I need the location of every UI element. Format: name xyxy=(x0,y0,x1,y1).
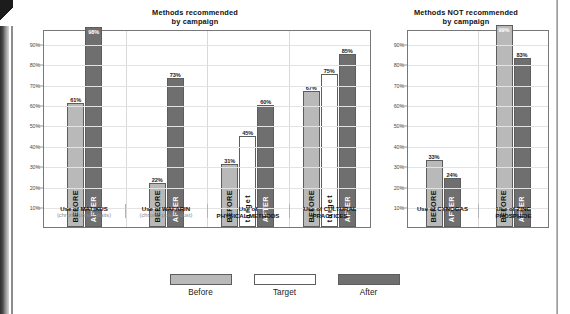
category-label-main2: PRACTICES xyxy=(290,212,370,219)
chart-right-plot-area: 90%80%70%60%50%40%30%20%10% 33%BEFORE24%… xyxy=(383,30,549,228)
bar-group: 61%BEFORE98%AFTER xyxy=(44,31,126,227)
chart-left-y-axis: 90%80%70%60%50%40%30%20%10% xyxy=(19,30,43,228)
gridline xyxy=(408,126,548,127)
category-label-main2: PHYSICAL METHODS xyxy=(208,212,288,219)
legend-swatch-before xyxy=(170,274,232,285)
gridline xyxy=(408,65,548,66)
category-label: Use of CYNOGAS xyxy=(407,202,478,220)
category-label-sub: (chronic poison baits) xyxy=(44,212,124,219)
legend-swatch-target xyxy=(254,274,316,285)
bar-after[interactable]: 98%AFTER xyxy=(85,27,102,227)
category-label-main: Use of ZINC xyxy=(479,205,548,212)
y-tick-mark xyxy=(36,167,43,168)
y-tick-mark xyxy=(36,146,43,147)
chart-right-plot: 33%BEFORE24%AFTER99%BEFORE83%AFTER xyxy=(407,30,549,228)
gridline xyxy=(408,147,548,148)
legend-label-after: After xyxy=(338,288,400,297)
y-tick-mark xyxy=(36,85,43,86)
bar-value-label: 24% xyxy=(447,172,458,178)
y-tick-mark xyxy=(400,105,407,106)
chart-left-plot-area: 90%80%70%60%50%40%30%20%10% 61%BEFORE98%… xyxy=(19,30,371,228)
legend-item-target[interactable]: Target xyxy=(254,274,316,297)
gridline xyxy=(44,147,370,148)
chart-right-bars: 33%BEFORE24%AFTER99%BEFORE83%AFTER xyxy=(408,31,548,227)
gridline xyxy=(408,86,548,87)
gridline xyxy=(408,106,548,107)
bar-group: 99%BEFORE83%AFTER xyxy=(478,31,548,227)
chart-legend: BeforeTargetAfter xyxy=(13,274,556,297)
gridline xyxy=(408,167,548,168)
bar-group: 22%BEFORE73%AFTER xyxy=(126,31,208,227)
bar-value-label: 83% xyxy=(517,52,528,58)
chart-right-y-axis: 90%80%70%60%50%40%30%20%10% xyxy=(383,30,407,228)
bar-group: 67%BEFORE75%target85%AFTER xyxy=(289,31,371,227)
y-tick-mark xyxy=(36,65,43,66)
category-label-main: Use of WAFARIN xyxy=(126,205,206,212)
bar-group: 33%BEFORE24%AFTER xyxy=(408,31,478,227)
y-tick-mark xyxy=(400,187,407,188)
chart-left-category-labels: Use of MATIKUS(chronic poison baits)Use … xyxy=(43,202,371,220)
gridline xyxy=(408,188,548,189)
y-tick-mark xyxy=(400,126,407,127)
bar-value-label: 75% xyxy=(324,68,335,74)
y-tick-mark xyxy=(36,207,43,208)
category-label: Use of MATIKUS(chronic poison baits) xyxy=(43,202,125,220)
category-label: Use of WAFARIN(chronic poison dust) xyxy=(125,202,207,220)
gridline xyxy=(44,86,370,87)
legend-item-before[interactable]: Before xyxy=(170,274,232,297)
chart-right-category-labels: Use of CYNOGASUse of ZINCPHOSPHIDE xyxy=(407,202,549,220)
legend-label-target: Target xyxy=(254,288,316,297)
bar-value-label: 60% xyxy=(260,99,271,105)
gridline xyxy=(44,188,370,189)
gridline xyxy=(408,45,548,46)
category-label: Use ofPHYSICAL METHODS xyxy=(207,202,289,220)
page-edge-shadow xyxy=(0,0,9,314)
bar-value-label: 33% xyxy=(429,154,440,160)
category-label-sub: (chronic poison dust) xyxy=(126,212,206,219)
y-tick-mark xyxy=(400,65,407,66)
bar-value-label: 85% xyxy=(342,48,353,54)
bar-value-label: 73% xyxy=(170,72,181,78)
category-label: Use of CULTURALPRACTICES xyxy=(289,202,371,220)
chart-left-bars: 61%BEFORE98%AFTER22%BEFORE73%AFTER31%BEF… xyxy=(44,31,370,227)
y-tick-mark xyxy=(36,187,43,188)
category-label-main: Use of MATIKUS xyxy=(44,205,124,212)
category-label-main: Use of CULTURAL xyxy=(290,205,370,212)
category-label-main: Use of CYNOGAS xyxy=(408,205,477,212)
y-tick-mark xyxy=(400,44,407,45)
category-label-main2: PHOSPHIDE xyxy=(479,212,548,219)
chart-right-title-line2: by campaign xyxy=(383,17,549,26)
chart-methods-recommended: Methods recommended by campaign 90%80%70… xyxy=(19,0,371,228)
gridline xyxy=(44,126,370,127)
chart-left-plot: 61%BEFORE98%AFTER22%BEFORE73%AFTER31%BEF… xyxy=(43,30,371,228)
chart-left-title: Methods recommended by campaign xyxy=(19,0,371,26)
bar-value-label: 98% xyxy=(88,29,99,35)
chart-left-title-line2: by campaign xyxy=(19,17,371,26)
gridline xyxy=(44,45,370,46)
legend-swatch-after xyxy=(338,274,400,285)
bar-value-label: 45% xyxy=(242,130,253,136)
chart-right-title: Methods NOT recommended by campaign xyxy=(383,0,549,26)
gridline xyxy=(44,167,370,168)
chart-left-title-line1: Methods recommended xyxy=(152,8,238,17)
y-tick-mark xyxy=(36,126,43,127)
y-tick-mark xyxy=(400,85,407,86)
bar-value-label: 99% xyxy=(499,27,510,33)
gridline xyxy=(44,106,370,107)
y-tick-mark xyxy=(36,105,43,106)
y-tick-mark xyxy=(400,146,407,147)
y-tick-mark xyxy=(400,207,407,208)
chart-right-title-line1: Methods NOT recommended xyxy=(414,8,518,17)
page-right-margin xyxy=(558,0,570,314)
legend-label-before: Before xyxy=(170,288,232,297)
bar-group: 31%BEFORE45%target60%AFTER xyxy=(207,31,289,227)
category-label: Use of ZINCPHOSPHIDE xyxy=(478,202,549,220)
y-tick-mark xyxy=(400,167,407,168)
legend-item-after[interactable]: After xyxy=(338,274,400,297)
bar-value-label: 31% xyxy=(224,158,235,164)
bar-value-label: 61% xyxy=(70,97,81,103)
category-label-main: Use of xyxy=(208,205,288,212)
bar-value-label: 22% xyxy=(152,177,163,183)
chart-methods-not-recommended: Methods NOT recommended by campaign 90%8… xyxy=(383,0,549,228)
y-tick-mark xyxy=(36,44,43,45)
